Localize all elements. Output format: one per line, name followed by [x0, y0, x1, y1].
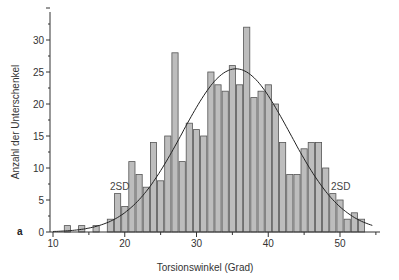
histogram-bar: [129, 162, 135, 232]
annotation-2sd-left: 2SD: [110, 181, 129, 192]
histogram-bar: [323, 168, 329, 232]
x-tick-label: 30: [191, 238, 203, 249]
y-tick-label: 5: [38, 195, 44, 206]
histogram-bar: [287, 174, 293, 232]
histogram-bar: [215, 85, 221, 232]
y-axis-title: Anzahl der Unterschenkel: [10, 65, 21, 180]
histogram-bar: [193, 130, 199, 232]
y-tick-label: 25: [33, 67, 45, 78]
histogram-bar: [251, 98, 257, 232]
histogram-bar: [222, 91, 228, 232]
x-tick-label: 40: [263, 238, 275, 249]
histogram-bar: [179, 162, 185, 232]
histogram-bar: [265, 85, 271, 232]
histogram-bars: [64, 27, 364, 232]
histogram-bar: [315, 142, 321, 232]
y-tick-label: 15: [33, 131, 45, 142]
histogram-bar: [208, 72, 214, 232]
y-tick-label: 30: [33, 35, 45, 46]
histogram-bar: [158, 181, 164, 232]
histogram-bar: [272, 104, 278, 232]
histogram-bar: [186, 123, 192, 232]
x-axis-title: Torsionswinkel (Grad): [157, 262, 254, 273]
histogram-bar: [229, 66, 235, 232]
histogram-bar: [122, 206, 128, 232]
y-tick-label: 0: [38, 227, 44, 238]
histogram-bar: [237, 85, 243, 232]
histogram-bar: [201, 136, 207, 232]
y-tick-label: 20: [33, 99, 45, 110]
histogram-bar: [244, 27, 250, 232]
histogram-bar: [258, 91, 264, 232]
y-tick-label: 10: [33, 163, 45, 174]
x-tick-label: 50: [334, 238, 346, 249]
histogram-bar: [344, 219, 350, 232]
histogram-bar: [150, 142, 156, 232]
x-tick-label: 10: [47, 238, 59, 249]
histogram-bar: [301, 149, 307, 232]
histogram-bar: [308, 142, 314, 232]
histogram-bar: [165, 136, 171, 232]
x-tick-label: 20: [119, 238, 131, 249]
histogram-bar: [136, 174, 142, 232]
panel-label: a: [17, 226, 23, 237]
annotation-2sd-right: 2SD: [331, 181, 350, 192]
histogram-chart: 0510152025301020304050 Torsionswinkel (G…: [0, 0, 399, 280]
histogram-bar: [115, 194, 121, 232]
histogram-bar: [280, 142, 286, 232]
histogram-bar: [294, 174, 300, 232]
